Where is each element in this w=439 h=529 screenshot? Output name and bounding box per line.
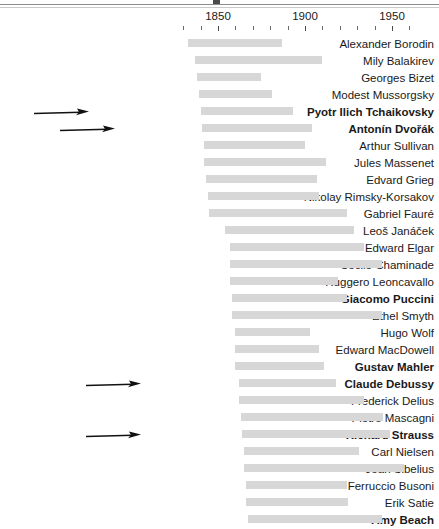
pointer-arrow-icon: [85, 378, 143, 391]
lifespan-bar[interactable]: [244, 447, 359, 455]
lifespan-bar[interactable]: [199, 90, 272, 98]
timeline-row[interactable]: Ferruccio Busoni: [0, 478, 439, 495]
x-axis-tick: [183, 26, 184, 30]
timeline-row[interactable]: Claude Debussy: [0, 376, 439, 393]
pointer-arrow-icon: [33, 106, 91, 119]
x-axis-ticks: [0, 26, 439, 32]
timeline-row[interactable]: Carl Nielsen: [0, 444, 439, 461]
timeline-row[interactable]: Pietro Mascagni: [0, 410, 439, 427]
x-axis-tick-label: 1850: [205, 10, 231, 23]
lifespan-bar[interactable]: [204, 158, 326, 166]
timeline-row[interactable]: Nikolay Rimsky-Korsakov: [0, 189, 439, 206]
lifespan-bar[interactable]: [209, 209, 346, 217]
lifespan-bar[interactable]: [241, 413, 384, 421]
timeline-row[interactable]: Antonín Dvořák: [0, 121, 439, 138]
timeline-row[interactable]: Pyotr Ilich Tchaikovsky: [0, 104, 439, 121]
x-axis-tick-label: 1950: [379, 10, 405, 23]
lifespan-bar[interactable]: [244, 464, 404, 472]
x-axis-tick: [340, 26, 341, 30]
timeline-row[interactable]: Gustav Mahler: [0, 359, 439, 376]
x-axis-tick: [322, 26, 323, 30]
x-axis-tick: [253, 26, 254, 30]
timeline-rows: Alexander BorodinMily BalakirevGeorges B…: [0, 36, 439, 529]
timeline-row[interactable]: Edward MacDowell: [0, 342, 439, 359]
lifespan-bar[interactable]: [204, 141, 305, 149]
x-axis-tick: [357, 26, 358, 30]
timeline-row[interactable]: Georges Bizet: [0, 70, 439, 87]
pointer-arrow-icon: [85, 429, 143, 442]
x-axis-tick: [305, 26, 306, 31]
lifespan-bar[interactable]: [232, 311, 382, 319]
lifespan-bar[interactable]: [206, 175, 317, 183]
x-axis-tick: [409, 26, 410, 30]
lifespan-bar[interactable]: [195, 56, 322, 64]
lifespan-bar[interactable]: [242, 430, 390, 438]
timeline-row[interactable]: Erik Satie: [0, 495, 439, 512]
x-axis-tick: [201, 26, 202, 30]
composer-name-label: Georges Bizet: [238, 70, 439, 86]
lifespan-bar[interactable]: [239, 396, 364, 404]
x-axis-tick: [375, 26, 376, 30]
header-marker: [213, 0, 220, 4]
timeline-row[interactable]: Richard Strauss: [0, 427, 439, 444]
timeline-row[interactable]: Modest Mussorgsky: [0, 87, 439, 104]
lifespan-bar[interactable]: [248, 515, 382, 523]
lifespan-bar[interactable]: [235, 345, 319, 353]
timeline-row[interactable]: Mily Balakirev: [0, 53, 439, 70]
timeline-row[interactable]: Cécile Chaminade: [0, 257, 439, 274]
x-axis-tick: [235, 26, 236, 30]
lifespan-bar[interactable]: [235, 362, 324, 370]
timeline-row[interactable]: Arthur Sullivan: [0, 138, 439, 155]
timeline-row[interactable]: Hugo Wolf: [0, 325, 439, 342]
lifespan-bar[interactable]: [246, 481, 347, 489]
timeline-row[interactable]: Alexander Borodin: [0, 36, 439, 53]
lifespan-bar[interactable]: [230, 277, 338, 285]
timeline-row[interactable]: Edward Elgar: [0, 240, 439, 257]
x-axis-tick: [288, 26, 289, 30]
lifespan-bar[interactable]: [197, 73, 261, 81]
x-axis-tick: [270, 26, 271, 30]
x-axis-tick-label: 1900: [292, 10, 318, 23]
timeline-row[interactable]: Giacomo Puccini: [0, 291, 439, 308]
timeline-row[interactable]: Leoš Janáček: [0, 223, 439, 240]
x-axis-labels: 185019001950: [0, 10, 439, 25]
x-axis-tick: [218, 26, 219, 31]
timeline-row[interactable]: Ruggero Leoncavallo: [0, 274, 439, 291]
lifespan-bar[interactable]: [208, 192, 319, 200]
timeline-row[interactable]: Jean Sibelius: [0, 461, 439, 478]
lifespan-bar[interactable]: [230, 260, 381, 268]
pointer-arrow-icon: [59, 123, 117, 136]
lifespan-bar[interactable]: [239, 379, 336, 387]
lifespan-bar[interactable]: [188, 39, 282, 47]
lifespan-bar[interactable]: [201, 107, 293, 115]
lifespan-bar[interactable]: [230, 243, 364, 251]
header-divider-secondary: [0, 7, 439, 8]
x-axis-tick: [392, 26, 393, 31]
lifespan-bar[interactable]: [202, 124, 312, 132]
timeline-row[interactable]: Ethel Smyth: [0, 308, 439, 325]
timeline-row[interactable]: Edvard Grieg: [0, 172, 439, 189]
timeline-row[interactable]: Jules Massenet: [0, 155, 439, 172]
lifespan-bar[interactable]: [225, 226, 354, 234]
lifespan-bar[interactable]: [232, 294, 347, 302]
timeline-row[interactable]: Gabriel Fauré: [0, 206, 439, 223]
lifespan-bar[interactable]: [235, 328, 310, 336]
timeline-row[interactable]: Amy Beach: [0, 512, 439, 529]
header-divider: [0, 4, 439, 5]
timeline-row[interactable]: Frederick Delius: [0, 393, 439, 410]
lifespan-bar[interactable]: [246, 498, 349, 506]
